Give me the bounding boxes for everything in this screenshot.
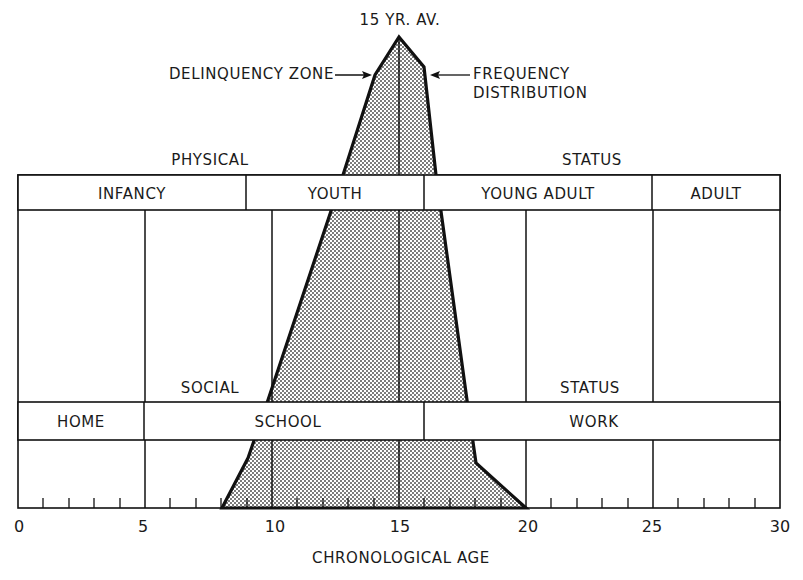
tick-10: 10 — [265, 517, 285, 536]
band-segment-home: HOME — [57, 413, 105, 431]
physical-band-label: PHYSICAL — [171, 151, 248, 169]
delinquency-zone-diagram: INFANCY YOUTH YOUNG ADULT ADULT PHYSICAL… — [0, 0, 803, 580]
arrow-right-icon — [335, 71, 372, 79]
arrow-left-icon — [430, 71, 470, 79]
tick-25: 25 — [642, 517, 662, 536]
tick-0: 0 — [14, 517, 24, 536]
x-axis-tick-labels: 0 5 10 15 20 25 30 — [14, 517, 790, 536]
band-segment-youth: YOUTH — [307, 185, 363, 203]
band-segment-young-adult: YOUNG ADULT — [480, 185, 595, 203]
physical-status-band: INFANCY YOUTH YOUNG ADULT ADULT — [18, 175, 780, 210]
frequency-label: FREQUENCY — [473, 65, 570, 83]
x-axis-label: CHRONOLOGICAL AGE — [312, 549, 490, 567]
tick-15: 15 — [390, 517, 410, 536]
tick-5: 5 — [138, 517, 148, 536]
average-age-label: 15 YR. AV. — [360, 11, 441, 29]
band-segment-infancy: INFANCY — [98, 185, 166, 203]
band-segment-adult: ADULT — [690, 185, 741, 203]
social-status-band: HOME SCHOOL WORK — [18, 402, 780, 440]
distribution-label: DISTRIBUTION — [473, 84, 588, 102]
physical-status-label: STATUS — [562, 151, 622, 169]
band-segment-work: WORK — [569, 413, 619, 431]
tick-30: 30 — [770, 517, 790, 536]
tick-20: 20 — [518, 517, 538, 536]
social-status-label: STATUS — [560, 379, 620, 397]
band-segment-school: SCHOOL — [255, 413, 322, 431]
social-band-label: SOCIAL — [181, 379, 239, 397]
delinquency-zone-label: DELINQUENCY ZONE — [169, 65, 334, 83]
